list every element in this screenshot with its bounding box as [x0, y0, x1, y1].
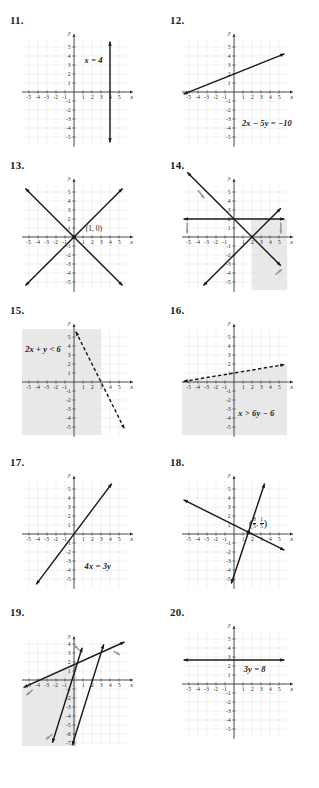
svg-text:2: 2 — [251, 536, 254, 542]
svg-text:-2: -2 — [53, 94, 58, 100]
svg-text:-4: -4 — [226, 567, 231, 573]
svg-text:5: 5 — [68, 486, 71, 492]
problem-number: 17. — [10, 456, 24, 468]
svg-text:-3: -3 — [66, 704, 71, 710]
svg-text:-5: -5 — [186, 94, 191, 100]
svg-text:-3: -3 — [44, 94, 49, 100]
svg-text:-2: -2 — [53, 682, 58, 688]
svg-text:x: x — [129, 682, 133, 688]
svg-text:-2: -2 — [226, 252, 231, 258]
equation-label: 4x = 3y — [85, 561, 111, 571]
svg-text:4: 4 — [228, 198, 231, 204]
problem-18: 18.-5-4-3-2-11234512345-1-2-3-4-5xy(85, … — [160, 450, 319, 600]
equation-label: 2x + y < 6 — [25, 344, 61, 354]
svg-text:-4: -4 — [66, 270, 71, 276]
coordinate-plane: -5-4-3-2-11234512345-1-2-3-4-5xy — [182, 468, 310, 600]
svg-text:1: 1 — [82, 682, 85, 688]
svg-text:5: 5 — [228, 334, 231, 340]
svg-text:3: 3 — [68, 207, 71, 213]
svg-text:-2: -2 — [213, 384, 218, 390]
svg-text:2: 2 — [251, 686, 254, 692]
problem-19: 19.-5-4-3-2-1123451234-1-2-3-4-5-6-7xy — [0, 600, 159, 788]
svg-text:-3: -3 — [226, 558, 231, 564]
svg-text:2: 2 — [68, 71, 71, 77]
coordinate-plane: -5-4-3-2-11234512345-1-2-3-4-5xy — [182, 171, 310, 303]
svg-text:x: x — [129, 384, 133, 390]
svg-text:3: 3 — [100, 94, 103, 100]
svg-text:2: 2 — [68, 513, 71, 519]
svg-text:-3: -3 — [204, 686, 209, 692]
svg-text:3: 3 — [228, 207, 231, 213]
svg-text:-5: -5 — [186, 686, 191, 692]
svg-text:5: 5 — [228, 189, 231, 195]
svg-text:-4: -4 — [195, 536, 200, 542]
svg-text:-2: -2 — [66, 107, 71, 113]
svg-text:x: x — [289, 94, 293, 100]
problem-number: 18. — [170, 456, 184, 468]
svg-text:3: 3 — [68, 62, 71, 68]
coordinate-plane: -5-4-3-2-11234512345-1-2-3-4-5xy — [22, 468, 150, 600]
svg-text:-2: -2 — [213, 94, 218, 100]
svg-text:5: 5 — [228, 636, 231, 642]
svg-text:-3: -3 — [204, 94, 209, 100]
svg-text:2: 2 — [228, 513, 231, 519]
svg-text:5: 5 — [68, 189, 71, 195]
svg-text:4: 4 — [68, 495, 71, 501]
svg-text:-2: -2 — [226, 107, 231, 113]
problem-16: 16.-5-4-3-2-11234512345-1-2-3-4-5xyx > 6… — [160, 298, 319, 450]
svg-text:-3: -3 — [204, 239, 209, 245]
svg-text:-3: -3 — [44, 536, 49, 542]
svg-text:4: 4 — [109, 239, 112, 245]
svg-text:-1: -1 — [66, 388, 71, 394]
svg-text:4: 4 — [269, 536, 272, 542]
svg-text:-4: -4 — [66, 713, 71, 719]
svg-text:2: 2 — [68, 216, 71, 222]
equation-label: x > 6y − 6 — [238, 408, 274, 418]
svg-text:4: 4 — [228, 343, 231, 349]
svg-text:-1: -1 — [226, 98, 231, 104]
svg-text:-2: -2 — [53, 384, 58, 390]
svg-text:y: y — [227, 622, 231, 628]
svg-text:-5: -5 — [66, 279, 71, 285]
svg-text:-4: -4 — [226, 125, 231, 131]
problem-15: 15.-5-4-3-2-11234512345-1-2-3-4-5xy2x + … — [0, 298, 159, 450]
svg-text:1: 1 — [228, 80, 231, 86]
svg-text:-4: -4 — [226, 415, 231, 421]
svg-text:-5: -5 — [186, 536, 191, 542]
svg-text:-4: -4 — [35, 536, 40, 542]
svg-text:4: 4 — [68, 198, 71, 204]
svg-text:3: 3 — [228, 62, 231, 68]
svg-text:-3: -3 — [66, 406, 71, 412]
svg-text:2: 2 — [91, 239, 94, 245]
worksheet-page: 11.-5-4-3-2-11234512345-1-2-3-4-5xyx = 4… — [0, 0, 319, 788]
svg-text:-5: -5 — [66, 576, 71, 582]
svg-text:-2: -2 — [53, 536, 58, 542]
svg-text:1: 1 — [242, 536, 245, 542]
svg-text:2: 2 — [251, 94, 254, 100]
svg-text:-2: -2 — [66, 252, 71, 258]
svg-text:-3: -3 — [226, 116, 231, 122]
equation-label: x = 4 — [85, 55, 103, 65]
svg-text:-2: -2 — [66, 397, 71, 403]
svg-text:3: 3 — [260, 686, 263, 692]
svg-text:3: 3 — [228, 352, 231, 358]
svg-text:-4: -4 — [195, 384, 200, 390]
svg-text:5: 5 — [278, 239, 281, 245]
svg-text:-5: -5 — [226, 726, 231, 732]
svg-text:3: 3 — [68, 352, 71, 358]
svg-text:3: 3 — [100, 239, 103, 245]
svg-text:x: x — [129, 536, 133, 542]
svg-text:-4: -4 — [226, 717, 231, 723]
problem-17: 17.-5-4-3-2-11234512345-1-2-3-4-5xy4x = … — [0, 450, 159, 600]
coordinate-plane: -5-4-3-2-1123451234-1-2-3-4-5-6-7xy — [22, 614, 150, 746]
intersection-point-label: (1, 0) — [86, 224, 102, 233]
svg-text:2: 2 — [228, 663, 231, 669]
problem-number: 15. — [10, 304, 24, 316]
svg-text:1: 1 — [68, 80, 71, 86]
svg-text:1: 1 — [68, 370, 71, 376]
coordinate-plane: -5-4-3-2-11234512345-1-2-3-4-5xy — [22, 316, 150, 448]
svg-text:-2: -2 — [213, 686, 218, 692]
svg-text:-2: -2 — [66, 549, 71, 555]
svg-text:5: 5 — [278, 94, 281, 100]
problem-14: 14.-5-4-3-2-11234512345-1-2-3-4-5xy — [160, 153, 319, 298]
